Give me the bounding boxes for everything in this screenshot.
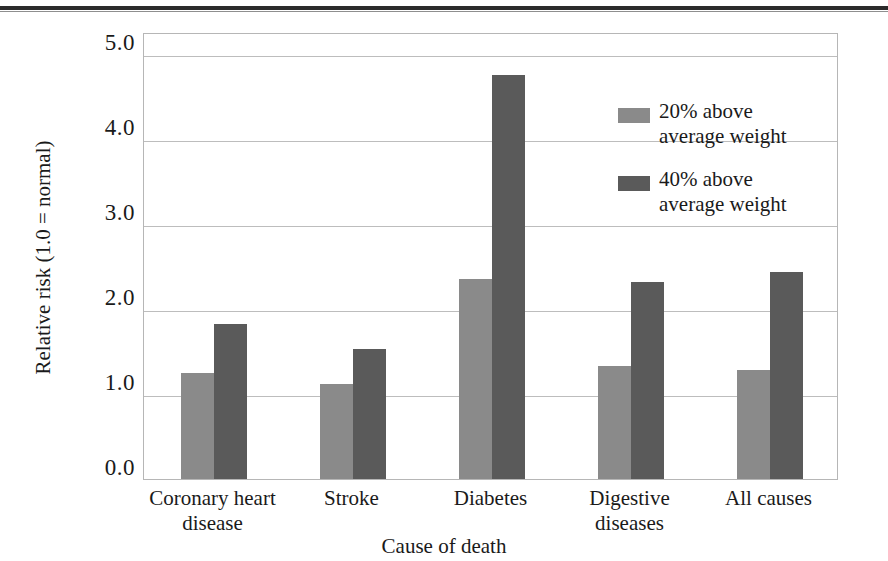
legend-item-label: 20% above average weight	[659, 99, 787, 149]
legend-item: 20% above average weight	[618, 99, 833, 149]
bar	[492, 75, 525, 479]
x-axis-tick-label: Diabetes	[421, 486, 560, 511]
y-axis-tick-label: 2.0	[79, 286, 135, 309]
x-axis-tick-label: Stroke	[282, 486, 421, 511]
legend-color-swatch	[618, 176, 650, 191]
bar	[459, 279, 492, 479]
x-axis-tick-label: Digestive diseases	[560, 486, 699, 536]
bar	[181, 373, 214, 479]
bar	[631, 282, 664, 479]
bar	[214, 324, 247, 479]
bar	[320, 384, 353, 479]
y-axis-tick-labels: 0.01.02.03.04.05.0	[71, 33, 135, 480]
y-axis-tick-label: 3.0	[79, 201, 135, 224]
bar	[598, 366, 631, 479]
legend-color-swatch	[618, 108, 650, 123]
y-axis-tick-label: 1.0	[79, 371, 135, 394]
chart-legend: 20% above average weight40% above averag…	[618, 99, 833, 235]
y-axis-tick-label: 5.0	[79, 31, 135, 54]
bar	[353, 349, 386, 479]
x-axis-title: Cause of death	[0, 534, 888, 559]
y-axis-tick-label: 0.0	[79, 456, 135, 479]
bar	[770, 272, 803, 479]
bar-chart-figure: 0.01.02.03.04.05.0 Relative risk (1.0 = …	[0, 0, 888, 561]
y-axis-tick-label: 4.0	[79, 116, 135, 139]
bar	[737, 370, 770, 479]
legend-item: 40% above average weight	[618, 167, 833, 217]
x-axis-tick-label: All causes	[699, 486, 838, 511]
x-axis-tick-label: Coronary heart disease	[143, 486, 282, 536]
legend-item-label: 40% above average weight	[659, 167, 787, 217]
gridline	[144, 56, 837, 57]
y-axis-title: Relative risk (1.0 = normal)	[31, 93, 56, 423]
